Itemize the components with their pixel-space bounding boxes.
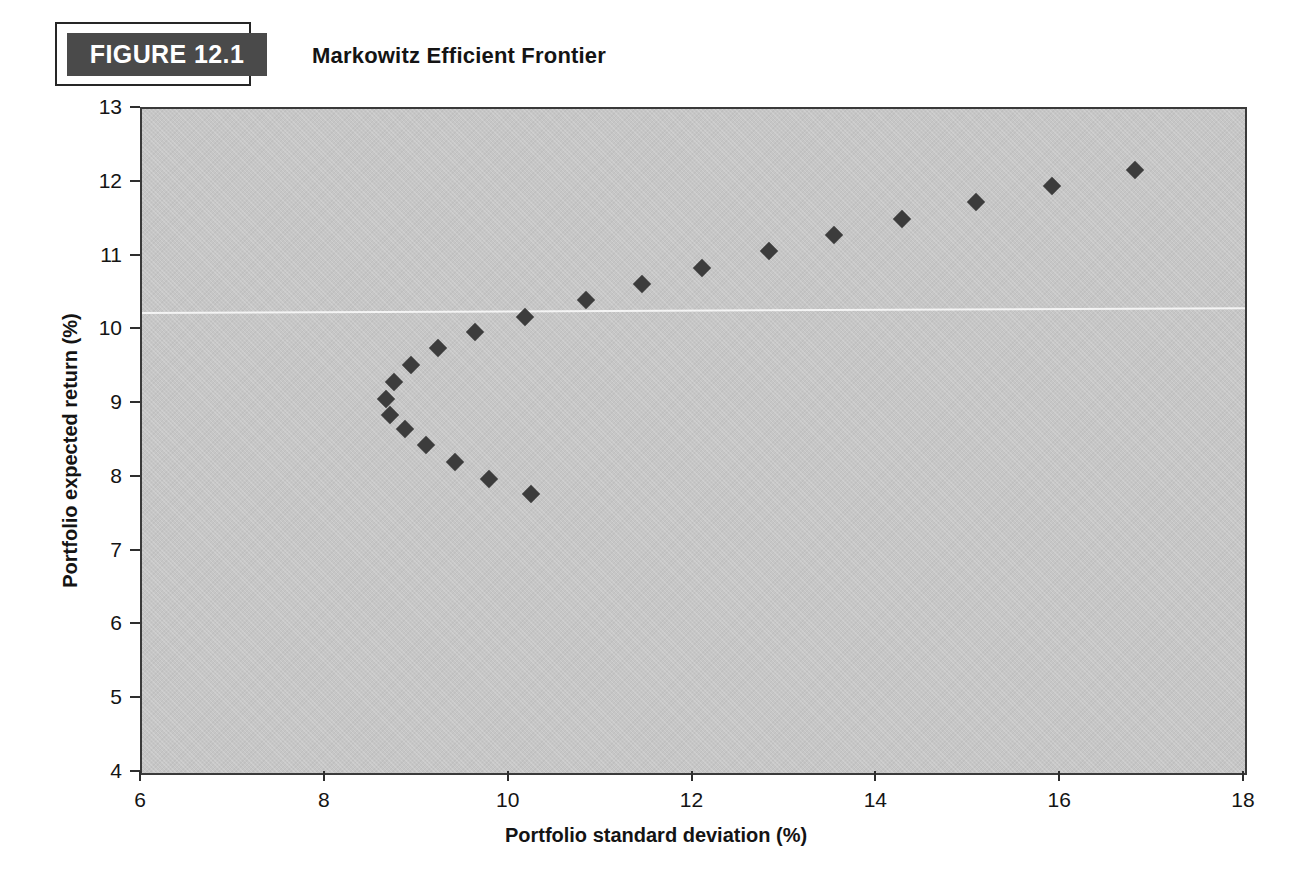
data-point-marker	[381, 406, 399, 424]
data-point-marker	[693, 258, 711, 276]
data-point-marker	[376, 390, 394, 408]
data-point-marker	[402, 356, 420, 374]
x-axis-tick	[1058, 771, 1060, 781]
x-axis-tick-label: 10	[478, 788, 538, 812]
y-axis-tick	[130, 696, 140, 698]
data-point-marker	[480, 469, 498, 487]
x-axis-tick	[323, 771, 325, 781]
data-point-marker	[429, 339, 447, 357]
y-axis-tick	[130, 180, 140, 182]
data-point-marker	[516, 308, 534, 326]
x-axis-tick-label: 8	[294, 788, 354, 812]
data-point-marker	[893, 210, 911, 228]
data-point-marker	[1043, 177, 1061, 195]
data-point-marker	[966, 193, 984, 211]
x-axis-tick	[507, 771, 509, 781]
y-axis-tick	[130, 106, 140, 108]
chart-area: 45678910111213 681012141618 Portfolio st…	[0, 0, 1312, 874]
y-axis-label: Portfolio expected return (%)	[59, 151, 82, 751]
data-point-marker	[577, 291, 595, 309]
x-axis-tick-label: 18	[1213, 788, 1273, 812]
data-point-marker	[825, 226, 843, 244]
data-point-marker	[466, 323, 484, 341]
data-point-marker	[445, 452, 463, 470]
plot-region	[140, 107, 1247, 775]
x-axis-tick-label: 12	[662, 788, 722, 812]
y-axis-tick-label: 13	[62, 95, 122, 119]
x-axis-tick-label: 14	[845, 788, 905, 812]
x-axis-tick	[874, 771, 876, 781]
y-axis-tick	[130, 549, 140, 551]
y-axis-tick-label: 4	[62, 759, 122, 783]
scan-line-artifact	[142, 307, 1245, 314]
x-axis-tick	[691, 771, 693, 781]
data-point-marker	[417, 436, 435, 454]
data-point-marker	[633, 275, 651, 293]
y-axis-tick	[130, 327, 140, 329]
data-point-marker	[1125, 161, 1143, 179]
data-point-marker	[385, 373, 403, 391]
y-axis-tick	[130, 622, 140, 624]
data-point-marker	[522, 485, 540, 503]
x-axis-label: Portfolio standard deviation (%)	[0, 824, 1312, 847]
data-point-marker	[760, 242, 778, 260]
y-axis-tick	[130, 254, 140, 256]
x-axis-tick	[139, 771, 141, 781]
y-axis-tick	[130, 401, 140, 403]
data-point-marker	[396, 420, 414, 438]
x-axis-tick	[1242, 771, 1244, 781]
y-axis-tick	[130, 475, 140, 477]
x-axis-tick-label: 16	[1029, 788, 1089, 812]
x-axis-tick-label: 6	[110, 788, 170, 812]
